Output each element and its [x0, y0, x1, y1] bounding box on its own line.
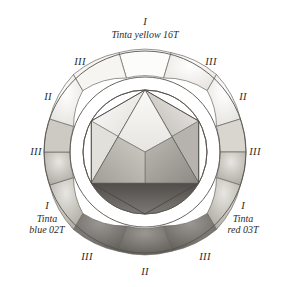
inner-disc [83, 90, 207, 214]
primary-name-blue-line2: blue 02T [29, 224, 64, 235]
primary-name-blue-line1: Tinta [29, 213, 64, 224]
numeral-right-lower: III [249, 146, 260, 158]
primary-label-yellow: I Tinta yellow 16T [111, 16, 178, 40]
primary-label-red: I Tinta red 03T [227, 200, 258, 235]
primary-name-red-line2: red 03T [227, 224, 258, 235]
numeral-bottom-right-outer: III [199, 251, 210, 263]
ring-sector [119, 49, 171, 78]
numeral-bottom-left-outer: III [81, 251, 92, 263]
numeral-upper-left: III [74, 56, 85, 68]
numeral-bottom-center: II [141, 266, 149, 278]
primary-name-red-line1: Tinta [227, 213, 258, 224]
numeral-upper-right: III [205, 56, 216, 68]
ring-sector [119, 226, 171, 255]
color-wheel-graphic [0, 0, 288, 287]
primary-label-blue: I Tinta blue 02T [29, 200, 64, 235]
primary-numeral-blue: I [29, 200, 64, 212]
numeral-right-upper: II [239, 91, 247, 103]
primary-name-yellow: Tinta yellow 16T [111, 29, 178, 40]
numeral-left-upper: II [44, 91, 52, 103]
ring-sector [74, 213, 127, 251]
primary-numeral-red: I [227, 200, 258, 212]
ring-sector [164, 213, 217, 251]
numeral-left-lower: III [30, 146, 41, 158]
primary-numeral-yellow: I [111, 16, 178, 28]
lower-void [91, 183, 198, 214]
color-wheel-figure: I Tinta yellow 16T I Tinta blue 02T I Ti… [0, 0, 288, 287]
